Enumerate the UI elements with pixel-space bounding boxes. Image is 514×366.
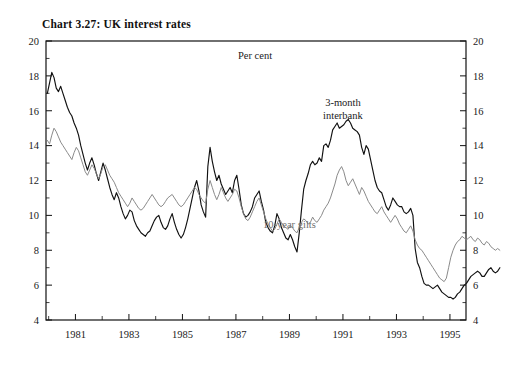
x-axis-tick-label: 1991 (332, 329, 353, 340)
annotation-line-1: 10-year gilts (263, 219, 316, 230)
unit-label: Per cent (238, 50, 272, 61)
annotation-line-2: interbank (323, 110, 363, 121)
series-annotation: 3-monthinterbank (323, 97, 363, 121)
annotation-line-1: 3-month (325, 97, 361, 108)
y-axis-tick-label-left: 16 (29, 106, 40, 117)
y-axis-tick-label-right: 16 (473, 106, 484, 117)
y-axis-tick-label-right: 8 (473, 245, 478, 256)
y-axis-tick-label-left: 20 (29, 36, 40, 47)
axes-layer: 4466881010121214141616181820201981198319… (29, 36, 485, 340)
series-annotation: 10-year gilts (263, 219, 316, 230)
y-axis-tick-label-right: 6 (473, 280, 478, 291)
y-axis-tick-label-right: 12 (473, 175, 484, 186)
series-line (47, 128, 500, 281)
chart-container: Chart 3.27: UK interest rates 4466881010… (0, 0, 514, 366)
y-axis-tick-label-right: 20 (473, 36, 484, 47)
x-axis-tick-label: 1983 (118, 329, 139, 340)
x-axis-tick-label: 1989 (279, 329, 300, 340)
y-axis-tick-label-right: 4 (473, 315, 479, 326)
y-axis-tick-label-right: 18 (473, 71, 484, 82)
x-axis-tick-label: 1985 (172, 329, 193, 340)
y-axis-tick-label-left: 8 (34, 245, 39, 256)
x-axis-tick-label: 1981 (65, 329, 86, 340)
y-axis-tick-label-left: 14 (29, 140, 40, 151)
y-axis-tick-label-left: 4 (34, 315, 40, 326)
chart-plot-area: 4466881010121214141616181820201981198319… (0, 0, 514, 366)
y-axis-tick-label-left: 12 (29, 175, 40, 186)
series-layer (47, 72, 500, 299)
x-axis-tick-label: 1995 (439, 329, 460, 340)
x-axis-tick-label: 1993 (386, 329, 407, 340)
y-axis-tick-label-left: 18 (29, 71, 40, 82)
y-axis-tick-label-right: 14 (473, 140, 484, 151)
y-axis-tick-label-right: 10 (473, 210, 484, 221)
y-axis-tick-label-left: 6 (34, 280, 39, 291)
x-axis-tick-label: 1987 (225, 329, 246, 340)
y-axis-tick-label-left: 10 (29, 210, 40, 221)
